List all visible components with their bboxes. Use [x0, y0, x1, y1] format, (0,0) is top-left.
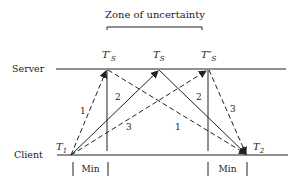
label-up-3: 3	[126, 122, 132, 132]
label-up-1: 1	[80, 106, 86, 116]
client-time-t1: T1	[56, 141, 67, 155]
server-label: Server	[12, 63, 45, 74]
server-time-middle: TS	[153, 49, 165, 63]
svg-text:TS: TS	[153, 49, 165, 63]
message-down-3	[209, 70, 246, 154]
label-down-2: 2	[196, 92, 202, 102]
svg-text:T1: T1	[56, 141, 67, 155]
clock-sync-diagram: Zone of uncertainty T′S TS T″S Server Cl…	[0, 0, 301, 185]
zone-bracket	[107, 27, 202, 30]
server-time-right: T″S	[201, 49, 216, 63]
diagram-svg: Zone of uncertainty T′S TS T″S Server Cl…	[0, 0, 301, 185]
label-up-2: 2	[115, 92, 121, 102]
server-time-left: T′S	[102, 49, 116, 63]
label-down-1: 1	[175, 122, 181, 132]
client-label: Client	[14, 149, 43, 160]
message-down-1	[108, 70, 246, 154]
svg-text:T′S: T′S	[102, 49, 116, 63]
svg-text:T2: T2	[253, 141, 265, 155]
client-time-t2: T2	[253, 141, 265, 155]
min-label-left: Min	[82, 164, 100, 174]
zone-title: Zone of uncertainty	[105, 9, 205, 20]
message-up-3	[71, 71, 206, 155]
svg-text:T″S: T″S	[201, 49, 216, 63]
label-down-3: 3	[230, 104, 236, 114]
min-label-right: Min	[219, 164, 237, 174]
message-up-1	[71, 71, 106, 155]
